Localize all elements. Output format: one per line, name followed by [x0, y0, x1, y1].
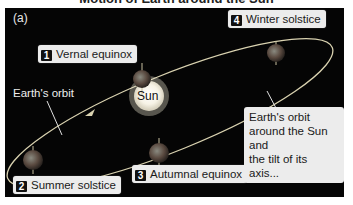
position-label: Summer solstice: [31, 179, 116, 191]
note-line: Earth's orbit: [249, 110, 339, 124]
orbit-label-leader: [47, 101, 62, 135]
label-vernal-equinox: 1Vernal equinox: [38, 45, 137, 63]
note-line: the tilt of its axis...: [249, 152, 339, 180]
position-label: Winter solstice: [246, 13, 321, 25]
panel-label: (a): [13, 11, 28, 25]
number-badge: 2: [16, 181, 27, 192]
number-badge: 3: [135, 170, 146, 181]
note-line: around the Sun and: [249, 124, 339, 152]
label-autumnal-equinox: 3Autumnal equinox: [132, 165, 247, 183]
label-winter-solstice: 4Winter solstice: [228, 10, 326, 28]
position-label: Vernal equinox: [56, 48, 132, 60]
earth-summer-solstice: [23, 146, 43, 174]
earth-winter-solstice: [267, 41, 285, 65]
label-summer-solstice: 2Summer solstice: [13, 176, 121, 194]
figure-title: Motion of Earth around the Sun: [0, 0, 353, 6]
orbit-label: Earth's orbit: [13, 87, 74, 99]
sun-label: Sun: [137, 89, 158, 103]
note-box: Earth's orbit around the Sun and the til…: [244, 107, 344, 183]
diagram-panel: (a) 1Vernal equinox 2Summer solstice 3Au…: [5, 8, 344, 197]
number-badge: 4: [231, 15, 242, 26]
position-label: Autumnal equinox: [150, 168, 242, 180]
number-badge: 1: [41, 50, 52, 61]
